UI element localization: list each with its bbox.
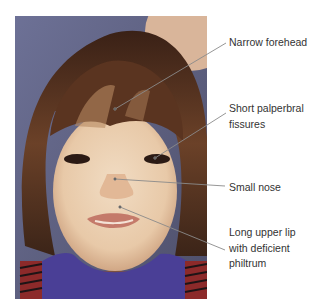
- label-line: Small nose: [229, 180, 281, 196]
- label-line: with deficient: [229, 241, 296, 257]
- label-small-nose: Small nose: [229, 180, 281, 196]
- label-line: Narrow forehead: [229, 35, 307, 51]
- label-line: philtrum: [229, 256, 296, 272]
- label-narrow-forehead: Narrow forehead: [229, 35, 307, 51]
- label-line: fissures: [229, 117, 304, 133]
- label-line: Long upper lip: [229, 225, 296, 241]
- label-long-upper-lip: Long upper lip with deficient philtrum: [229, 225, 296, 272]
- child-face-photo: [15, 16, 207, 299]
- label-line: Short palperbral: [229, 101, 304, 117]
- label-short-palpebral-fissures: Short palperbral fissures: [229, 101, 304, 132]
